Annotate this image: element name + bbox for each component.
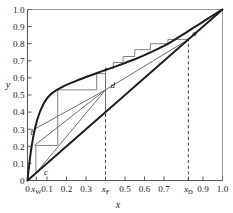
x-tick-label-10: 0.9 xyxy=(197,184,209,194)
x-tick-label-6: 0.5 xyxy=(119,184,131,194)
y-tick-label-1: 0.1 xyxy=(13,159,25,169)
y-tick-label-0: 0 xyxy=(20,176,25,186)
x-tick-label-8: 0.7 xyxy=(158,184,170,194)
point-label-a: a xyxy=(192,28,197,38)
y-tick-label-7: 0.7 xyxy=(13,56,25,66)
y-tick-label-3: 0.3 xyxy=(13,125,25,135)
y-axis-title: y xyxy=(5,79,11,90)
y-tick-label-4: 0.4 xyxy=(13,107,25,117)
point-label-b: b xyxy=(30,127,35,137)
y-tick-label-2: 0.2 xyxy=(13,142,25,152)
mccabe-thiele-diagram: 0xW0.10.20.3xF0.50.60.7xD0.91.0 00.10.20… xyxy=(0,0,233,213)
x-tick-label-7: 0.6 xyxy=(139,184,151,194)
x-tick-label-2: 0.1 xyxy=(41,184,53,194)
x-tick-label-3: 0.2 xyxy=(61,184,73,194)
x-tick-label-11: 1.0 xyxy=(217,184,229,194)
y-tick-label-10: 1.0 xyxy=(13,5,25,15)
y-tick-label-9: 0.9 xyxy=(13,22,25,32)
y-tick-label-5: 0.5 xyxy=(13,90,25,100)
y-tick-label-6: 0.6 xyxy=(13,73,25,83)
chart-svg: 0xW0.10.20.3xF0.50.60.7xD0.91.0 00.10.20… xyxy=(0,0,233,213)
x-tick-label-4: 0.3 xyxy=(80,184,92,194)
x-tick-label-0: 0 xyxy=(25,184,30,194)
x-axis-title: x xyxy=(115,199,121,210)
y-tick-label-8: 0.8 xyxy=(13,39,25,49)
point-label-d: d xyxy=(110,80,115,90)
point-label-c: c xyxy=(44,167,48,177)
